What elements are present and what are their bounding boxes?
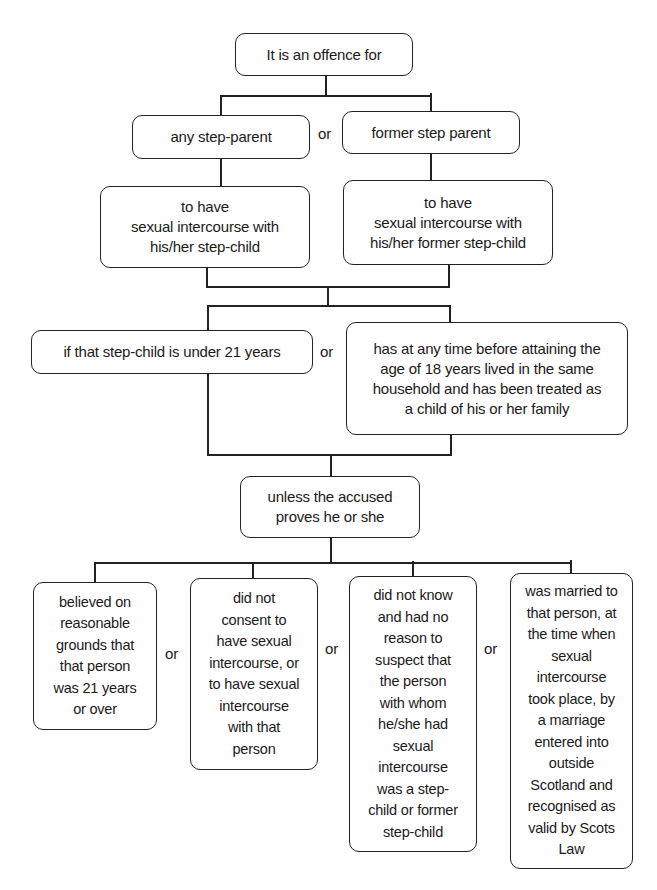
unless-label: unless the accused proves he or she <box>268 487 393 527</box>
defence-node-no-consent: did not consent to have sexual intercour… <box>190 578 318 770</box>
connector <box>327 286 329 306</box>
connector <box>206 268 208 288</box>
act-former-step-child-label: to have sexual intercourse with his/her … <box>370 193 526 253</box>
connector <box>450 435 452 455</box>
or-label: or <box>484 640 497 657</box>
act-step-child-node: to have sexual intercourse with his/her … <box>100 186 310 268</box>
or-label: or <box>165 645 178 662</box>
unless-node: unless the accused proves he or she <box>240 476 420 538</box>
connector <box>94 563 96 582</box>
connector <box>330 454 332 476</box>
connector <box>252 562 254 578</box>
former-step-parent-label: former step parent <box>372 123 491 143</box>
connector <box>448 265 450 287</box>
act-step-child-label: to have sexual intercourse with his/her … <box>131 197 279 257</box>
defence-label: did not know and had no reason to suspec… <box>368 585 458 843</box>
connector <box>570 560 572 573</box>
connector <box>207 374 209 456</box>
connector <box>330 538 332 563</box>
or-label: or <box>325 640 338 657</box>
defence-label: was married to that person, at the time … <box>525 581 617 861</box>
connector <box>94 562 572 564</box>
connector <box>430 93 432 111</box>
defence-node-married: was married to that person, at the time … <box>510 573 633 869</box>
any-step-parent-label: any step-parent <box>170 127 271 147</box>
defence-label: believed on reasonable grounds that that… <box>53 592 136 721</box>
condition-under-21-label: if that step-child is under 21 years <box>63 342 280 362</box>
connector <box>220 159 222 186</box>
connector <box>430 154 432 180</box>
defence-label: did not consent to have sexual intercour… <box>209 588 300 760</box>
former-step-parent-node: former step parent <box>342 111 520 154</box>
or-label: or <box>318 125 331 142</box>
defence-node-did-not-know: did not know and had no reason to suspec… <box>349 576 477 852</box>
connector <box>207 305 209 330</box>
or-label: or <box>320 343 333 360</box>
condition-household-node: has at any time before attaining the age… <box>346 322 628 435</box>
condition-household-label: has at any time before attaining the age… <box>373 339 602 419</box>
connector <box>325 76 327 96</box>
connector <box>412 561 414 576</box>
connector <box>207 305 451 307</box>
act-former-step-child-node: to have sexual intercourse with his/her … <box>343 180 553 265</box>
condition-under-21-node: if that step-child is under 21 years <box>31 330 313 374</box>
root-node: It is an offence for <box>235 33 413 76</box>
connector <box>449 305 451 322</box>
any-step-parent-node: any step-parent <box>132 115 310 159</box>
connector <box>220 95 222 115</box>
connector <box>220 95 432 97</box>
defence-node-believed-21: believed on reasonable grounds that that… <box>33 582 157 730</box>
root-label: It is an offence for <box>267 45 382 65</box>
